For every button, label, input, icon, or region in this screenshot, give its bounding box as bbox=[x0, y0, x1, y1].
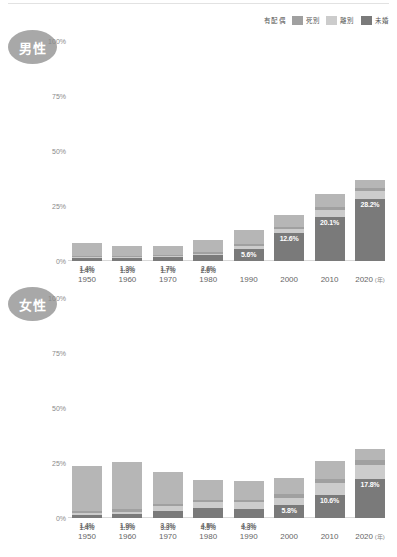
y-gridline: 100% bbox=[72, 41, 385, 42]
bar-value-label: 20.1% bbox=[315, 219, 345, 226]
x-axis-value-label: 1.3% bbox=[112, 266, 142, 275]
x-axis-year-label: 2010 bbox=[315, 275, 345, 284]
x-axis-year-label: 1980 bbox=[193, 275, 223, 284]
panel-badge-male: 男性 bbox=[8, 30, 57, 64]
x-axis-label-cell: 1990 bbox=[234, 266, 264, 284]
chart-page: 有配偶死別離別未婚 男性 1.4%1.3%1.7%2.6%5.6%12.6%20… bbox=[0, 0, 397, 557]
legend-item: 有配偶 bbox=[264, 15, 286, 25]
x-axis-label-cell: 2010 bbox=[315, 266, 345, 284]
bar-value-label: 5.6% bbox=[234, 251, 264, 258]
bar-segment bbox=[274, 215, 304, 227]
x-axis-year-label: 1950 bbox=[72, 532, 102, 541]
x-axis-year-label: 1970 bbox=[153, 532, 183, 541]
y-axis-tick-label: 50% bbox=[52, 405, 66, 412]
x-axis-label-cell: 2000 bbox=[274, 523, 304, 541]
bar-segment bbox=[153, 472, 183, 504]
x-axis-year-label: 1960 bbox=[112, 532, 142, 541]
panel-male: 男性 1.4%1.3%1.7%2.6%5.6%12.6%20.1%28.2% 1… bbox=[0, 30, 397, 288]
x-axis-value-label: 4.3% bbox=[234, 523, 264, 532]
bar-segment bbox=[355, 449, 385, 461]
legend-label: 未婚 bbox=[375, 15, 389, 25]
x-axis-year-label: 2020 (年) bbox=[355, 275, 385, 284]
x-axis-label-cell: 2020 (年) bbox=[355, 266, 385, 284]
x-axis-year-label: 1950 bbox=[72, 275, 102, 284]
bar-stack bbox=[234, 481, 264, 518]
top-divider bbox=[8, 3, 389, 4]
bar-segment bbox=[72, 466, 102, 511]
x-axis-year-label: 1960 bbox=[112, 275, 142, 284]
legend-label: 離別 bbox=[340, 15, 354, 25]
x-axis-label-cell: 2020 (年) bbox=[355, 523, 385, 541]
bar-stack bbox=[153, 472, 183, 518]
x-axis-label-cell: 2010 bbox=[315, 523, 345, 541]
y-gridline: 25% bbox=[72, 463, 385, 464]
y-axis-tick-label: 0% bbox=[56, 515, 66, 522]
y-axis-tick-label: 75% bbox=[52, 93, 66, 100]
x-axis-label-cell: 1.7%1970 bbox=[153, 266, 183, 284]
x-axis-label-cell: 1.4%1950 bbox=[72, 523, 102, 541]
legend-swatch-icon bbox=[361, 16, 372, 25]
y-axis-tick-label: 75% bbox=[52, 350, 66, 357]
x-axis-year-label: 2010 bbox=[315, 532, 345, 541]
y-gridline: 75% bbox=[72, 96, 385, 97]
bar-stack bbox=[315, 194, 345, 261]
bar-stack bbox=[112, 246, 142, 261]
bar-segment bbox=[193, 480, 223, 500]
x-axis-value-label bbox=[315, 266, 345, 275]
x-axis-value-label: 1.4% bbox=[72, 523, 102, 532]
x-axis-label-cell: 2000 bbox=[274, 266, 304, 284]
x-axis-label-cell: 1.9%1960 bbox=[112, 523, 142, 541]
y-gridline: 50% bbox=[72, 408, 385, 409]
x-axis-value-label bbox=[355, 523, 385, 532]
bar-stack bbox=[193, 240, 223, 261]
x-axis-value-label bbox=[274, 266, 304, 275]
x-axis-year-label: 1990 bbox=[234, 275, 264, 284]
legend-label: 有配偶 bbox=[264, 15, 286, 25]
legend-label: 死別 bbox=[306, 15, 320, 25]
bar-segment bbox=[112, 462, 142, 510]
x-axis-value-label: 1.7% bbox=[153, 266, 183, 275]
x-axis-label-cell: 4.5%1980 bbox=[193, 523, 223, 541]
bar-segment bbox=[193, 508, 223, 518]
x-axis-label-cell: 1.3%1960 bbox=[112, 266, 142, 284]
bar-stack bbox=[72, 243, 102, 261]
bar-value-label: 10.6% bbox=[315, 497, 345, 504]
x-axis-value-label bbox=[315, 523, 345, 532]
bar-stack bbox=[72, 466, 102, 518]
x-axis-value-label bbox=[234, 266, 264, 275]
bar-segment bbox=[234, 481, 264, 500]
y-axis-tick-label: 25% bbox=[52, 203, 66, 210]
bar-segment bbox=[355, 465, 385, 479]
y-axis-tick-label: 0% bbox=[56, 258, 66, 265]
legend-swatch-icon bbox=[326, 16, 337, 25]
x-axis-year-label: 2020 (年) bbox=[355, 532, 385, 541]
plot-area-female: 1.4%1.9%3.3%4.5%4.3%5.8%10.6%17.8% 100%7… bbox=[72, 298, 385, 518]
bar-segment bbox=[153, 246, 183, 255]
bar-segment bbox=[234, 230, 264, 244]
bar-segment bbox=[315, 483, 345, 494]
bar-segment bbox=[274, 478, 304, 494]
bar-segment bbox=[153, 511, 183, 518]
x-axis-value-label bbox=[274, 523, 304, 532]
bar-value-label: 17.8% bbox=[355, 481, 385, 488]
bar-stack bbox=[315, 461, 345, 518]
bar-segment bbox=[355, 180, 385, 188]
x-axis-label-cell: 3.3%1970 bbox=[153, 523, 183, 541]
y-axis-tick-label: 25% bbox=[52, 460, 66, 467]
bar-stack bbox=[112, 462, 142, 518]
x-axis-year-label: 1970 bbox=[153, 275, 183, 284]
x-axis-labels-female: 1.4%19501.9%19603.3%19704.5%19804.3%1990… bbox=[72, 523, 385, 541]
x-axis-label-cell: 4.3%1990 bbox=[234, 523, 264, 541]
bar-segment bbox=[193, 240, 223, 252]
y-gridline: 25% bbox=[72, 206, 385, 207]
bar-segment bbox=[355, 199, 385, 261]
bar-value-label: 5.8% bbox=[274, 507, 304, 514]
bar-segment bbox=[112, 246, 142, 256]
y-axis-tick-label: 50% bbox=[52, 148, 66, 155]
x-axis-year-label: 1990 bbox=[234, 532, 264, 541]
legend-item: 死別 bbox=[292, 15, 320, 25]
y-axis-tick-label: 100% bbox=[48, 38, 66, 45]
panel-badge-female: 女性 bbox=[8, 287, 57, 321]
y-gridline: 75% bbox=[72, 353, 385, 354]
chart-legend: 有配偶死別離別未婚 bbox=[264, 15, 389, 25]
